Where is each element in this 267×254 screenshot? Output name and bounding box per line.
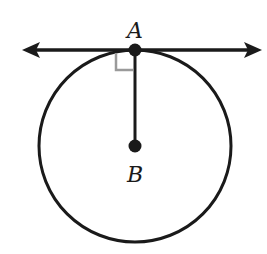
label-b: B — [126, 162, 143, 187]
diagram-canvas: A B — [0, 0, 267, 254]
point-a — [129, 44, 142, 57]
right-angle-marker — [116, 53, 133, 70]
diagram-svg: A B — [0, 0, 267, 254]
label-a: A — [125, 18, 143, 43]
point-b — [129, 140, 142, 153]
